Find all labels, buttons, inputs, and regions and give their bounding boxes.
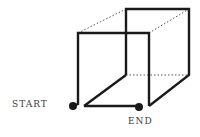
cube-path-diagram: START END — [0, 0, 200, 137]
start-label: START — [12, 99, 48, 109]
dotted-edges — [78, 9, 189, 75]
start-dot — [69, 102, 77, 110]
solid-path — [73, 9, 189, 106]
end-label: END — [128, 116, 153, 126]
end-dot — [135, 103, 143, 111]
cube-figure — [0, 0, 200, 137]
